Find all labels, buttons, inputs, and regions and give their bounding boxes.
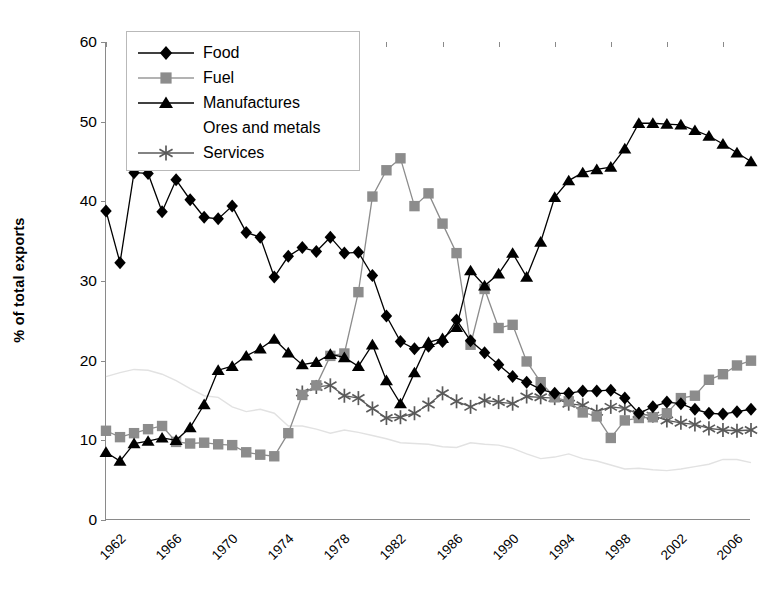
legend-marker-none-icon <box>135 118 197 138</box>
x-axis-tick-mark <box>106 42 107 47</box>
x-axis-tick-mark <box>499 42 500 47</box>
x-axis-tick-label: 1970 <box>209 531 241 563</box>
x-axis-tick-label: 1986 <box>433 531 465 563</box>
chart-legend: FoodFuelManufacturesOres and metalsServi… <box>126 31 360 171</box>
x-axis-tick-mark <box>667 42 668 47</box>
x-axis-tick-label: 1990 <box>489 531 521 563</box>
y-axis-tick-mark <box>101 201 106 202</box>
legend-item-food[interactable]: Food <box>127 40 359 65</box>
y-axis-title-text: % of total exports <box>11 217 27 342</box>
x-axis-tick-label: 1974 <box>265 531 297 563</box>
series-food <box>100 166 756 420</box>
legend-label: Ores and metals <box>203 119 320 137</box>
legend-marker-triangle-icon <box>135 93 197 113</box>
legend-label: Manufactures <box>203 94 300 112</box>
legend-marker-square-icon <box>135 68 197 88</box>
x-axis-tick-mark <box>555 42 556 47</box>
x-axis-tick-label: 1978 <box>321 531 353 563</box>
x-axis-tick-label: 2002 <box>658 531 690 563</box>
legend-marker-asterisk-icon <box>135 143 197 163</box>
x-axis-tick-mark <box>386 42 387 47</box>
x-axis-tick-label: 1994 <box>545 531 577 563</box>
legend-item-fuel[interactable]: Fuel <box>127 65 359 90</box>
y-axis-title: % of total exports <box>6 0 32 560</box>
x-axis-tick-mark <box>443 42 444 47</box>
legend-label: Food <box>203 44 239 62</box>
y-axis-tick-mark <box>101 520 106 521</box>
y-axis-tick-mark <box>101 440 106 441</box>
legend-marker-diamond-icon <box>135 43 197 63</box>
legend-label: Fuel <box>203 69 234 87</box>
y-axis-tick-mark <box>101 361 106 362</box>
series-fuel <box>101 153 756 461</box>
x-axis-tick-label: 1982 <box>377 531 409 563</box>
legend-label: Services <box>203 144 264 162</box>
chart-container: % of total exports 010203040506019621966… <box>0 0 781 608</box>
x-axis-tick-label: 1962 <box>97 531 129 563</box>
legend-item-services[interactable]: Services <box>127 140 359 165</box>
y-axis-tick-mark <box>101 122 106 123</box>
x-axis-tick-label: 1966 <box>153 531 185 563</box>
legend-item-manufactures[interactable]: Manufactures <box>127 90 359 115</box>
x-axis-tick-mark <box>723 42 724 47</box>
x-axis-tick-label: 1998 <box>602 531 634 563</box>
y-axis-tick-mark <box>101 281 106 282</box>
legend-item-ores-and-metals[interactable]: Ores and metals <box>127 115 359 140</box>
x-axis-tick-mark <box>611 42 612 47</box>
x-axis-tick-label: 2006 <box>714 531 746 563</box>
